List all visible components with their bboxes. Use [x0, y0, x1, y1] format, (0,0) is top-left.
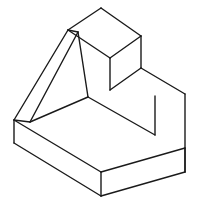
- isometric-part-drawing: [0, 0, 198, 205]
